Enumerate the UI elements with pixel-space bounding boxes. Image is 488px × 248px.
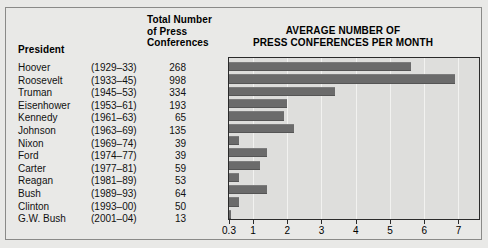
axis-tick [458, 220, 459, 224]
column-header-president: President [18, 44, 64, 55]
x-axis: 0.31234567 [228, 220, 480, 244]
axis-tick [356, 220, 357, 224]
bar-hoover [229, 62, 411, 71]
axis-tick-label: 7 [456, 225, 462, 236]
cell-years: (1953–61) [91, 100, 137, 111]
cell-president-name: Reagan [18, 175, 53, 186]
axis-tick [321, 220, 322, 224]
bar-series [229, 58, 479, 219]
chart-title-line1: AVERAGE NUMBER OF [212, 25, 474, 37]
cell-total-conferences: 50 [150, 201, 186, 212]
cell-president-name: Eisenhower [18, 100, 70, 111]
bar-row [229, 184, 479, 196]
axis-tick-label: 4 [353, 225, 359, 236]
bar-reagan [229, 173, 239, 182]
axis-tick [390, 220, 391, 224]
column-header-total-line1: Total Number [147, 14, 227, 26]
axis-tick-label: 1 [250, 225, 256, 236]
bar-row [229, 135, 479, 147]
cell-total-conferences: 193 [150, 100, 186, 111]
bar-row [229, 147, 479, 159]
cell-years: (1969–74) [91, 138, 137, 149]
cell-total-conferences: 135 [150, 125, 186, 136]
cell-president-name: Nixon [18, 138, 44, 149]
axis-tick-label: 6 [421, 225, 427, 236]
cell-total-conferences: 998 [150, 75, 186, 86]
axis-tick [424, 220, 425, 224]
cell-years: (1981–89) [91, 175, 137, 186]
cell-total-conferences: 59 [150, 163, 186, 174]
bar-eisenhower [229, 99, 287, 108]
bar-g-w-bush [229, 210, 231, 219]
bar-clinton [229, 197, 239, 206]
cell-years: (1989–93) [91, 188, 137, 199]
cell-president-name: Hoover [18, 62, 50, 73]
cell-years: (1993–00) [91, 201, 137, 212]
bar-bush [229, 185, 267, 194]
cell-years: (1963–69) [91, 125, 137, 136]
cell-years: (2001–04) [91, 213, 137, 224]
cell-president-name: Roosevelt [18, 75, 62, 86]
bar-johnson [229, 124, 294, 133]
bar-row [229, 98, 479, 110]
bar-ford [229, 148, 267, 157]
cell-total-conferences: 39 [150, 138, 186, 149]
axis-tick-label: 0.3 [222, 225, 236, 236]
cell-total-conferences: 64 [150, 188, 186, 199]
axis-tick-label: 2 [284, 225, 290, 236]
cell-total-conferences: 39 [150, 150, 186, 161]
figure-container: President Total Number of Press Conferen… [0, 0, 488, 248]
cell-president-name: Carter [18, 163, 46, 174]
cell-total-conferences: 13 [150, 213, 186, 224]
bar-row [229, 209, 479, 221]
cell-years: (1961–63) [91, 112, 137, 123]
bar-row [229, 86, 479, 98]
axis-tick [287, 220, 288, 224]
bar-carter [229, 161, 260, 170]
cell-years: (1933–45) [91, 75, 137, 86]
bar-row [229, 122, 479, 134]
cell-president-name: Kennedy [18, 112, 57, 123]
bar-kennedy [229, 111, 284, 120]
bar-nixon [229, 136, 239, 145]
cell-total-conferences: 65 [150, 112, 186, 123]
chart-title-line2: PRESS CONFERENCES PER MONTH [212, 37, 474, 49]
cell-president-name: Johnson [18, 125, 56, 136]
cell-total-conferences: 268 [150, 62, 186, 73]
bar-row [229, 73, 479, 85]
cell-president-name: Truman [18, 87, 52, 98]
cell-president-name: Bush [18, 188, 41, 199]
bar-row [229, 172, 479, 184]
chart-title: AVERAGE NUMBER OF PRESS CONFERENCES PER … [212, 25, 474, 49]
bar-row [229, 110, 479, 122]
bar-truman [229, 87, 335, 96]
cell-total-conferences: 334 [150, 87, 186, 98]
bar-chart-plot-area [228, 57, 480, 220]
cell-president-name: Clinton [18, 201, 49, 212]
axis-tick-label: 5 [387, 225, 393, 236]
cell-total-conferences: 53 [150, 175, 186, 186]
cell-years: (1945–53) [91, 87, 137, 98]
cell-president-name: Ford [18, 150, 39, 161]
bar-row [229, 61, 479, 73]
cell-president-name: G.W. Bush [18, 213, 66, 224]
bar-row [229, 196, 479, 208]
bar-row [229, 159, 479, 171]
cell-years: (1977–81) [91, 163, 137, 174]
axis-tick-label: 3 [319, 225, 325, 236]
axis-tick [253, 220, 254, 224]
axis-tick [229, 220, 230, 224]
cell-years: (1974–77) [91, 150, 137, 161]
bar-roosevelt [229, 74, 455, 83]
cell-years: (1929–33) [91, 62, 137, 73]
